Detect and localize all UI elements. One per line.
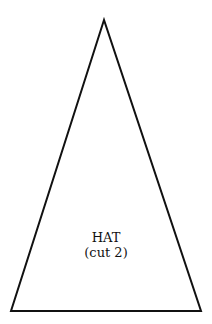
pattern-piece-outline xyxy=(0,0,212,324)
piece-name-label: HAT xyxy=(0,230,212,245)
hat-triangle-shape xyxy=(11,20,201,311)
cut-instruction-label: (cut 2) xyxy=(0,245,212,260)
